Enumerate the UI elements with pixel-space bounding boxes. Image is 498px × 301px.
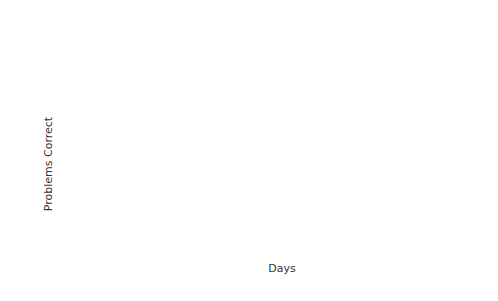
y-axis-title: Problems Correct [42, 116, 55, 211]
x-axis-title: Days [268, 262, 296, 275]
chart: Days Problems Correct [0, 0, 498, 301]
